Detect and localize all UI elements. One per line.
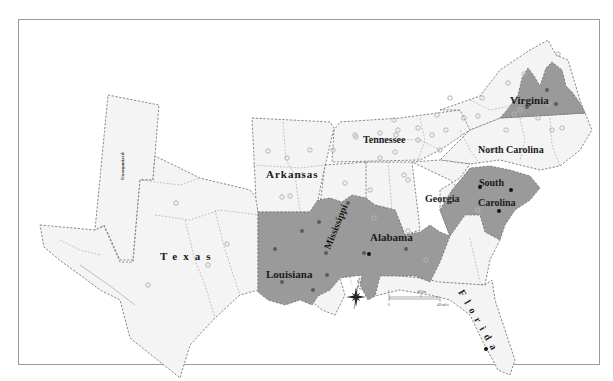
open-circle-marker bbox=[448, 96, 452, 100]
black-dot-marker bbox=[497, 209, 501, 213]
black-dot-marker bbox=[367, 252, 371, 256]
confederacy-map: Virginia Tennessee North Carolina Arkans… bbox=[0, 0, 613, 381]
label-carolina: Carolina bbox=[478, 197, 516, 208]
label-north-carolina: North Carolina bbox=[478, 144, 544, 155]
label-tennessee: Tennessee bbox=[363, 134, 406, 145]
black-dot-marker bbox=[509, 188, 513, 192]
region-texas bbox=[40, 156, 258, 378]
gray-dot-marker bbox=[273, 247, 277, 251]
gray-dot-marker bbox=[362, 251, 366, 255]
open-circle-marker bbox=[556, 52, 560, 56]
gray-dot-marker bbox=[404, 247, 408, 251]
label-south: South bbox=[479, 177, 504, 188]
gray-dot-marker bbox=[545, 88, 549, 92]
gray-dot-marker bbox=[324, 251, 328, 255]
gray-dot-marker bbox=[325, 273, 329, 277]
scale-miles-label: 400 miles bbox=[437, 303, 450, 307]
label-alabama: Alabama bbox=[370, 231, 413, 243]
scale-zero-miles: 0 bbox=[388, 303, 390, 307]
region-florida bbox=[358, 272, 515, 375]
gray-dot-marker bbox=[554, 102, 558, 106]
label-unorganized: Unorganized bbox=[120, 152, 125, 180]
gray-dot-marker bbox=[311, 288, 315, 292]
gray-dot-marker bbox=[280, 280, 284, 284]
label-texas: Texas bbox=[160, 250, 217, 262]
label-georgia: Georgia bbox=[425, 193, 459, 204]
gray-dot-marker bbox=[300, 229, 304, 233]
label-louisiana: Louisiana bbox=[266, 268, 313, 280]
black-dot-marker bbox=[484, 347, 488, 351]
label-virginia: Virginia bbox=[510, 94, 549, 106]
gray-dot-marker bbox=[346, 201, 350, 205]
gray-dot-marker bbox=[317, 220, 321, 224]
scale-km-label: 400 km bbox=[417, 290, 427, 294]
label-arkansas: Arkansas bbox=[266, 168, 319, 180]
